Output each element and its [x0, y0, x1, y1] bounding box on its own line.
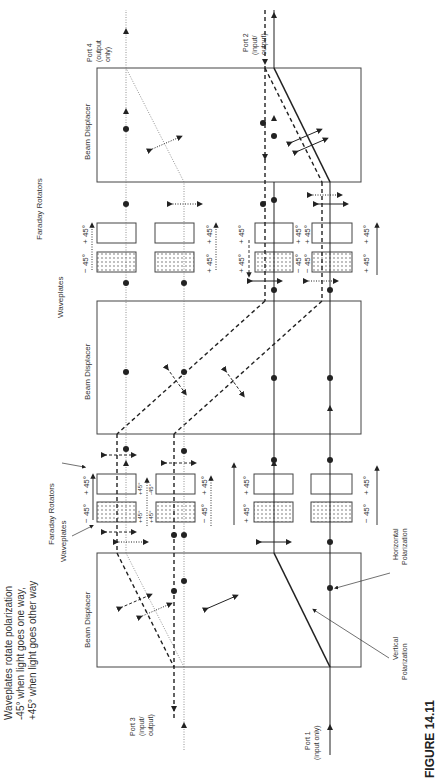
svg-text:− 45°: − 45°	[82, 504, 91, 523]
svg-text:+ 45°: + 45°	[200, 476, 209, 495]
faraday-rotator	[155, 223, 194, 243]
faraday-rotator	[97, 223, 136, 243]
svg-text:(output: (output	[95, 40, 103, 62]
beam-path-port3-to-port4	[126, 10, 184, 750]
svg-text:Polarization: Polarization	[401, 528, 408, 565]
svg-text:+45°: +45°	[148, 510, 154, 523]
faraday-rotators-label-lower: Faraday Rotators	[47, 483, 56, 545]
svg-text:(input only): (input only)	[313, 725, 321, 760]
svg-text:+45°: +45°	[137, 482, 143, 495]
waveplate-note: Waveplates rotate polarization -45° when…	[3, 581, 38, 720]
svg-text:+45°: +45°	[137, 510, 143, 523]
svg-text:+ 45°: + 45°	[205, 225, 214, 244]
svg-text:Waveplates rotate polarization: Waveplates rotate polarization	[3, 586, 14, 720]
svg-text:-45° when light goes one way,: -45° when light goes one way,	[15, 587, 26, 720]
svg-text:(input/: (input/	[251, 35, 259, 55]
svg-text:− 45°: − 45°	[303, 254, 312, 273]
svg-text:− 45°: − 45°	[81, 254, 90, 273]
beam-path-port2-to-port3	[117, 10, 322, 720]
port4-label: Port 4 (output only)	[86, 40, 112, 62]
optical-circulator-diagram: Beam Displacer Beam Displacer Beam Displ…	[0, 0, 438, 783]
port3-label: Port 3 (input/ output)	[129, 714, 155, 736]
svg-text:+45° when light goes other way: +45° when light goes other way	[27, 581, 38, 720]
svg-text:+ 45°: + 45°	[362, 254, 371, 273]
svg-text:Polarization: Polarization	[401, 643, 408, 680]
svg-text:− 45°: − 45°	[200, 504, 209, 523]
beam-displacer-middle	[97, 301, 361, 434]
direction-arrows	[123, 12, 333, 730]
svg-text:Vertical: Vertical	[392, 637, 399, 660]
faraday-rotators-label-upper: Faraday Rotators	[35, 178, 44, 240]
waveplates-pointer	[72, 526, 92, 536]
beam-displacer-bottom-label: Beam Displacer	[83, 591, 92, 648]
waveplates-label-upper: Waveplates	[56, 277, 65, 319]
port1-label: Port 1 (input only)	[304, 725, 321, 760]
vertical-pointer	[314, 610, 389, 658]
svg-text:+ 45°: + 45°	[237, 225, 246, 244]
svg-text:(input/: (input/	[138, 716, 146, 736]
beam-displacer-top-label: Beam Displacer	[83, 103, 92, 160]
svg-text:+ 45°: + 45°	[82, 476, 91, 495]
svg-text:Port 2: Port 2	[242, 33, 249, 52]
beam-displacer-middle-label: Beam Displacer	[83, 343, 92, 400]
polarization-dots	[123, 120, 333, 594]
waveplate	[97, 252, 136, 272]
figure-caption: FIGURE 14.11	[423, 700, 437, 778]
svg-text:Port 4: Port 4	[86, 43, 93, 62]
faraday-pointer	[62, 463, 84, 467]
waveplates-label-lower: Waveplates	[59, 521, 68, 563]
svg-text:output): output)	[260, 33, 268, 55]
polarization-arrows	[104, 130, 346, 617]
waveplate	[311, 502, 352, 522]
svg-text:Port 3: Port 3	[129, 717, 136, 736]
horizontal-pointer	[336, 573, 390, 588]
svg-text:+ 45°: + 45°	[303, 225, 312, 244]
svg-text:+ 45°: + 45°	[237, 254, 246, 273]
svg-text:+ 45°: + 45°	[81, 225, 90, 244]
faraday-rotator	[311, 474, 352, 494]
svg-text:− 45°: − 45°	[362, 504, 371, 523]
svg-text:-45°: -45°	[148, 483, 154, 495]
svg-text:+ 45°: + 45°	[205, 254, 214, 273]
svg-text:+ 45°: + 45°	[362, 476, 371, 495]
waveplate	[155, 252, 194, 272]
svg-text:+ 45°: + 45°	[362, 225, 371, 244]
waveplate	[156, 502, 195, 522]
beam-path-port1-to-port2	[274, 10, 330, 755]
waveplate	[312, 252, 352, 272]
svg-text:output): output)	[147, 714, 155, 736]
horizontal-polarization-label: Horizontal Polarization	[392, 528, 408, 565]
svg-text:+ 45°: + 45°	[294, 225, 303, 244]
faraday-rotator	[312, 223, 352, 243]
svg-text:+ 45°: + 45°	[242, 476, 251, 495]
svg-text:Port 1: Port 1	[304, 731, 311, 750]
svg-text:+ 45°: + 45°	[242, 504, 251, 523]
svg-text:− 45°: − 45°	[294, 254, 303, 273]
port2-label: Port 2 (input/ output)	[242, 33, 268, 55]
svg-text:only): only)	[104, 47, 112, 62]
svg-text:Horizontal: Horizontal	[392, 528, 399, 560]
faraday-rotator	[156, 474, 195, 494]
vertical-polarization-label: Vertical Polarization	[392, 637, 408, 680]
